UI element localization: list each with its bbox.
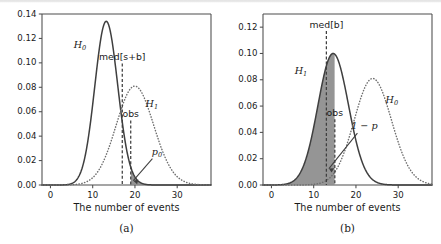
figure-root: 0.000.020.040.060.080.100.120.140102030T… <box>0 0 441 244</box>
x-tick-label: 30 <box>172 190 183 200</box>
panel-caption: (a) <box>119 222 133 234</box>
x-axis-title: The number of events <box>72 202 179 213</box>
marker-label-medsb: med[s+b] <box>99 51 145 62</box>
panel-a: 0.000.020.040.060.080.100.120.140102030T… <box>0 0 220 244</box>
x-tick-label: 30 <box>393 190 404 200</box>
x-tick-label: 20 <box>129 190 140 200</box>
x-tick-label: 0 <box>48 190 53 200</box>
curve-H0 <box>263 78 432 185</box>
series-label-H0: H0 <box>73 39 87 52</box>
y-tick-label: 0.00 <box>238 180 257 190</box>
y-tick-label: 0.10 <box>17 57 36 67</box>
curve-H0 <box>42 21 211 185</box>
y-tick-label: 0.00 <box>17 180 36 190</box>
annotation-one-minus-p: 1 − p <box>351 120 377 131</box>
y-tick-label: 0.10 <box>238 48 257 58</box>
y-tick-label: 0.06 <box>238 101 257 111</box>
marker-label-obs: obs <box>327 107 344 118</box>
y-tick-label: 0.04 <box>17 131 36 141</box>
y-tick-label: 0.08 <box>17 82 36 92</box>
x-tick-label: 10 <box>308 190 319 200</box>
marker-label-obs: obs <box>123 108 140 119</box>
curve-H1 <box>263 53 432 185</box>
y-tick-label: 0.06 <box>17 106 36 116</box>
panel-b: 0.000.020.040.060.080.100.120102030The n… <box>220 0 440 244</box>
y-tick-label: 0.12 <box>17 33 36 43</box>
series-label-H1: H1 <box>145 98 159 111</box>
marker-label-medb: med[b] <box>309 19 343 30</box>
y-tick-label: 0.04 <box>238 127 257 137</box>
series-label-H1: H1 <box>294 65 308 78</box>
x-tick-label: 0 <box>269 190 274 200</box>
curve-H1 <box>42 86 211 185</box>
y-tick-label: 0.08 <box>238 74 257 84</box>
panel-a-plot: 0.000.020.040.060.080.100.120.140102030T… <box>0 0 220 244</box>
x-tick-label: 20 <box>350 190 361 200</box>
y-tick-label: 0.12 <box>238 22 257 32</box>
x-tick-label: 10 <box>87 190 98 200</box>
series-label-H0: H0 <box>385 94 399 107</box>
annotation-p0: p0 <box>152 146 162 159</box>
y-tick-label: 0.02 <box>17 155 36 165</box>
y-tick-label: 0.14 <box>17 9 36 19</box>
x-axis-title: The number of events <box>293 202 400 213</box>
annotation-p0-leader <box>133 159 152 181</box>
panel-caption: (b) <box>340 222 355 234</box>
panel-b-plot: 0.000.020.040.060.080.100.120102030The n… <box>220 0 441 244</box>
plot-frame <box>42 14 211 185</box>
y-tick-label: 0.02 <box>238 153 257 163</box>
